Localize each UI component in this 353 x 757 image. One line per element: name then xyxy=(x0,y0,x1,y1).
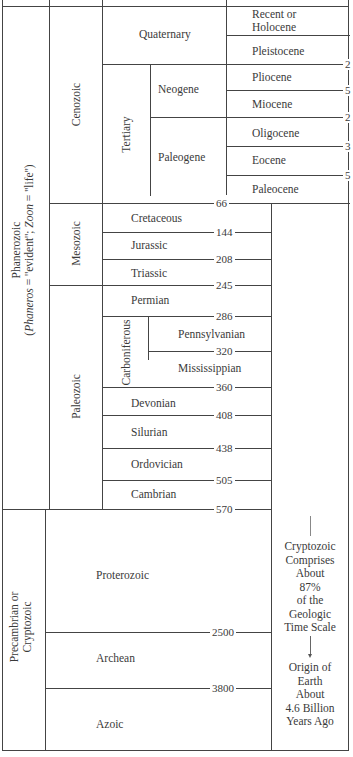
boundary-286: 286 xyxy=(214,311,235,322)
boundary-408: 408 xyxy=(214,410,235,421)
era-cenozoic: Cenozoic xyxy=(70,75,83,135)
top-line xyxy=(2,6,348,7)
col-line-eon-lower xyxy=(45,509,46,751)
border-left xyxy=(2,0,3,751)
note-origin-of-earth: Origin of Earth About 4.6 Billion Years … xyxy=(272,661,348,729)
line-2500 xyxy=(45,632,272,633)
epoch-pleistocene: Pleistocene xyxy=(252,45,304,58)
boundary-clipped-2: 5 xyxy=(343,85,353,96)
boundary-clipped-3: 2 xyxy=(343,112,353,123)
line-eocene xyxy=(226,175,350,176)
period-pennsylvanian: Pennsylvanian xyxy=(178,328,245,341)
era-archean: Archean xyxy=(96,652,135,665)
period-jurassic: Jurassic xyxy=(131,239,167,252)
line-holocene xyxy=(226,35,350,36)
phanerozoic-etymology: (Phaneros = ''evident''; Zoon = ''life''… xyxy=(23,115,36,385)
boundary-144: 144 xyxy=(214,227,235,238)
note-connector-top xyxy=(310,516,311,536)
boundary-208: 208 xyxy=(214,254,235,265)
period-cambrian: Cambrian xyxy=(131,488,176,501)
line-245 xyxy=(49,285,272,286)
bottom-line xyxy=(2,750,272,751)
col-line-epoch xyxy=(226,0,227,195)
line-320 xyxy=(148,351,272,352)
line-neogene xyxy=(150,117,350,118)
arrow-down-icon xyxy=(308,654,312,658)
period-neogene: Neogene xyxy=(158,83,199,96)
epoch-miocene: Miocene xyxy=(252,98,292,111)
boundary-clipped-1: 2 xyxy=(343,59,353,70)
era-paleozoic: Paleozoic xyxy=(70,367,83,427)
period-tertiary: Tertiary xyxy=(120,105,133,165)
boundary-clipped-4: 3 xyxy=(343,141,353,152)
epoch-eocene: Eocene xyxy=(252,154,286,167)
line-pliocene xyxy=(226,90,350,91)
epoch-recent: Recent or Holocene xyxy=(252,8,296,34)
boundary-2500: 2500 xyxy=(210,627,236,638)
boundary-320: 320 xyxy=(214,346,235,357)
line-505 xyxy=(102,480,272,481)
note-cryptozoic-share: Cryptozoic Comprises About 87% of the Ge… xyxy=(272,540,348,635)
boundary-clipped-5: 5 xyxy=(343,170,353,181)
line-quaternary xyxy=(102,64,350,65)
boundary-66: 66 xyxy=(214,198,229,209)
period-triassic: Triassic xyxy=(131,267,167,280)
boundary-360: 360 xyxy=(214,382,235,393)
col-line-carboniferous xyxy=(148,316,149,360)
col-line-era xyxy=(102,0,103,510)
line-408 xyxy=(102,415,272,416)
era-mesozoic: Mesozoic xyxy=(70,214,83,274)
line-3800 xyxy=(45,688,272,689)
era-proterozoic: Proterozoic xyxy=(96,569,149,582)
period-ordovician: Ordovician xyxy=(131,458,183,471)
line-438 xyxy=(102,448,272,449)
boundary-570: 570 xyxy=(214,504,235,515)
boundary-505: 505 xyxy=(214,475,235,486)
period-carboniferous: Carboniferous xyxy=(120,313,133,393)
arrow-down-line xyxy=(310,636,311,656)
boundary-245: 245 xyxy=(214,280,235,291)
period-quaternary: Quaternary xyxy=(139,28,191,41)
boundary-438: 438 xyxy=(214,443,235,454)
eon-phanerozoic-label: Phanerozoic (Phaneros = ''evident''; Zoo… xyxy=(10,115,40,385)
epoch-pliocene: Pliocene xyxy=(252,71,292,84)
period-silurian: Silurian xyxy=(131,426,167,439)
period-paleogene: Paleogene xyxy=(158,151,205,164)
line-oligocene xyxy=(226,146,350,147)
era-azoic: Azoic xyxy=(96,718,123,731)
epoch-paleocene: Paleocene xyxy=(252,183,299,196)
eon-precambrian-label: Precambrian or Cryptozoic xyxy=(8,577,38,677)
boundary-3800: 3800 xyxy=(210,683,236,694)
col-line-eon xyxy=(49,0,50,510)
col-line-tertiary xyxy=(150,64,151,196)
line-66 xyxy=(49,203,350,204)
period-cretaceous: Cretaceous xyxy=(131,212,182,225)
period-mississippian: Mississippian xyxy=(178,362,241,375)
period-devonian: Devonian xyxy=(131,397,176,410)
epoch-oligocene: Oligocene xyxy=(252,127,299,140)
period-permian: Permian xyxy=(131,294,169,307)
line-208 xyxy=(102,259,272,260)
bottom-line-right xyxy=(271,750,349,751)
line-144 xyxy=(102,232,272,233)
